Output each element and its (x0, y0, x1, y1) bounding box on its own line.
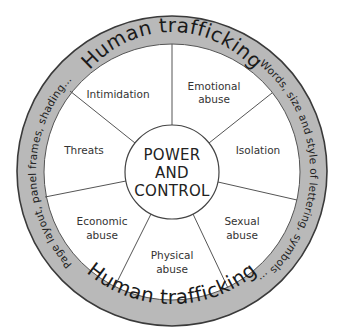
segment-label: Physical (151, 249, 194, 261)
segment-label: Threats (63, 144, 104, 156)
center-label-line-2: AND (155, 164, 189, 182)
segment-label: abuse (198, 93, 230, 105)
segment-label: Isolation (236, 144, 280, 156)
segment-intimidation: Intimidation (86, 88, 149, 100)
segment-label: Economic (77, 215, 128, 227)
center-label-line-3: CONTROL (134, 182, 210, 200)
segment-label: Sexual (224, 215, 259, 227)
segment-label: Emotional (188, 80, 241, 92)
segment-label: abuse (86, 229, 118, 241)
segment-label: abuse (226, 229, 258, 241)
segment-label: Intimidation (86, 88, 149, 100)
power-control-wheel: POWER AND CONTROL Intimidation Emotional… (0, 0, 337, 334)
segment-isolation: Isolation (236, 144, 280, 156)
segment-label: abuse (156, 263, 188, 275)
segment-threats: Threats (63, 144, 104, 156)
center-label-line-1: POWER (143, 146, 200, 164)
